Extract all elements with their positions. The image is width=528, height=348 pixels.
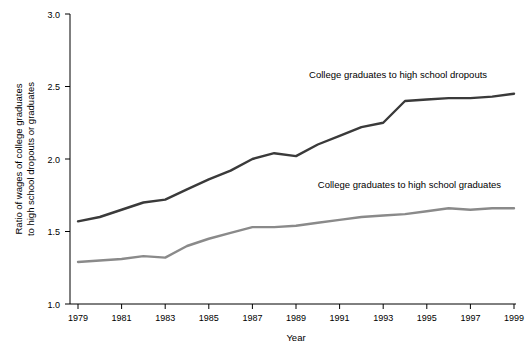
x-tick-label: 1995 xyxy=(417,313,437,323)
x-tick-label: 1993 xyxy=(373,313,393,323)
y-tick-label: 1.5 xyxy=(47,227,60,237)
x-tick-label: 1991 xyxy=(330,313,350,323)
annotation-college-to-graduates: College graduates to high school graduat… xyxy=(318,179,502,190)
y-tick-label: 3.0 xyxy=(47,10,60,20)
x-tick-label: 1987 xyxy=(242,313,262,323)
x-tick-label: 1983 xyxy=(155,313,175,323)
chart-container: 3.0 2.5 2.0 1.5 1.0 1979 1981 1983 1985 … xyxy=(0,0,528,348)
x-tick-label: 1989 xyxy=(286,313,306,323)
x-tick-label: 1981 xyxy=(112,313,132,323)
y-tick-label: 1.0 xyxy=(47,300,60,310)
line-chart: 3.0 2.5 2.0 1.5 1.0 1979 1981 1983 1985 … xyxy=(0,0,528,348)
y-tick-label: 2.0 xyxy=(47,155,60,165)
y-axis-title-line2: to high school dropouts or graduates xyxy=(25,82,36,236)
y-axis-title-line1: Ratio of wages of college graduates xyxy=(13,83,24,234)
y-tick-label: 2.5 xyxy=(47,82,60,92)
annotation-college-to-dropouts: College graduates to high school dropout… xyxy=(309,69,487,80)
chart-background xyxy=(0,0,528,348)
x-tick-label: 1999 xyxy=(504,313,524,323)
x-axis-title: Year xyxy=(286,332,305,343)
x-tick-label: 1985 xyxy=(199,313,219,323)
x-tick-label: 1979 xyxy=(68,313,88,323)
x-tick-label: 1997 xyxy=(460,313,480,323)
